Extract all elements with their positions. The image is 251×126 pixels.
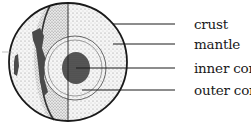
label-crust: crust [194,17,228,31]
sphere [2,3,127,122]
earth-layers-diagram: crust mantle inner core outer core [0,0,251,126]
label-inner-core: inner core [194,61,251,75]
label-outer-core: outer core [194,83,251,97]
label-mantle: mantle [194,37,240,51]
